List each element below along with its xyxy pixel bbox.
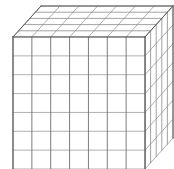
front-face-group	[13, 37, 145, 169]
front-face-fill	[13, 37, 145, 169]
cube-diagram: Base-ten block cube wireframe	[0, 0, 174, 169]
cube-wireframe-svg: Base-ten block cube wireframe	[0, 0, 174, 169]
